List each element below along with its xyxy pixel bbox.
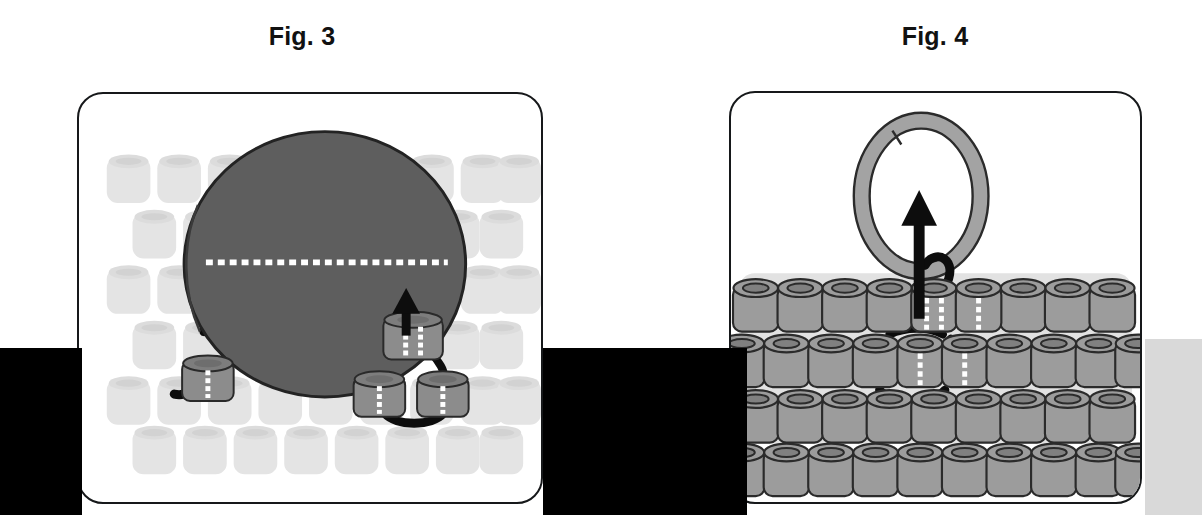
- figure-4-drawing: [731, 93, 1140, 502]
- migrating-cell-right: [383, 312, 442, 360]
- figure-4-title: Fig. 4: [845, 22, 1025, 51]
- figure-canvas: Fig. 3: [0, 0, 1202, 515]
- black-band-left: [0, 348, 82, 515]
- figure-3-panel: [77, 92, 543, 504]
- gray-strip-right: [1145, 339, 1202, 515]
- figure-4-panel: [729, 91, 1142, 504]
- figure-3-drawing: [79, 94, 541, 502]
- figure-3-title: Fig. 3: [212, 22, 392, 51]
- black-band-middle: [543, 348, 747, 515]
- migrating-cell-left: [182, 355, 234, 401]
